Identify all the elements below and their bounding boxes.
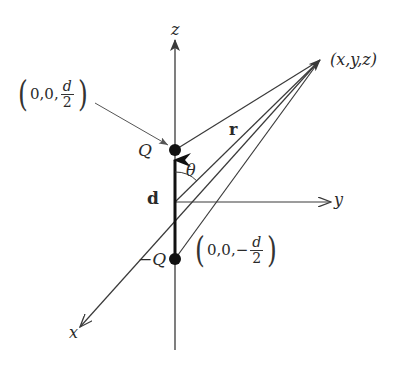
positive-charge-dot (169, 144, 181, 156)
open-paren: ( (18, 76, 28, 112)
dipole-label: d (147, 188, 159, 208)
fraction-numerator: d (61, 79, 74, 95)
coord-fraction: d 2 (250, 235, 263, 265)
fraction-denominator: 2 (63, 95, 72, 110)
field-point-label: (x,y,z) (330, 50, 377, 69)
y-axis-label: y (334, 190, 343, 209)
x-axis-label: x (69, 323, 78, 342)
coord-prefix: 0,0, (30, 85, 59, 103)
fraction-numerator: d (250, 235, 263, 251)
coord-fraction: d 2 (61, 79, 74, 109)
close-paren: ) (267, 232, 277, 268)
open-paren: ( (195, 232, 205, 268)
coord-prefix: 0,0,− (207, 241, 248, 259)
x-axis (80, 62, 318, 327)
positive-charge-label: Q (138, 140, 152, 160)
theta-label: θ (186, 161, 196, 180)
positive-charge-coord: ( 0,0, d 2 ) (16, 76, 90, 112)
dipole-diagram: z y x Q −Q d r θ (x,y,z) ( 0,0, d 2 ) ( … (0, 0, 409, 368)
line-q-to-point (175, 60, 320, 150)
r-vector-label: r (229, 120, 237, 139)
fraction-denominator: 2 (252, 251, 261, 266)
z-axis-label: z (171, 20, 179, 39)
negative-charge-dot (169, 253, 181, 265)
close-paren: ) (78, 76, 88, 112)
label-pointer-arrow (95, 103, 168, 145)
negative-charge-coord: ( 0,0,− d 2 ) (193, 232, 279, 268)
negative-charge-label: −Q (138, 249, 166, 269)
